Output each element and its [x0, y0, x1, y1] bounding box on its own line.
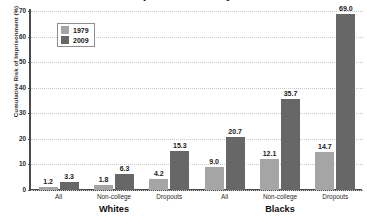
- bar: [205, 167, 224, 190]
- legend-label: 1979: [73, 27, 89, 34]
- x-tick-label: Non-college: [84, 194, 144, 200]
- bar: [226, 137, 245, 190]
- bar: [315, 152, 334, 190]
- x-tick-label: Dropouts: [139, 194, 199, 200]
- y-tick-mark: [28, 139, 31, 140]
- bar-value-label: 15.3: [164, 142, 195, 149]
- bar: [39, 187, 58, 190]
- y-tick-label: 0: [6, 187, 26, 193]
- y-tick-mark: [28, 11, 31, 12]
- x-axis-group-label: Blacks: [230, 205, 330, 214]
- gridline: [31, 11, 363, 12]
- bar: [260, 159, 279, 190]
- y-tick-label: 40: [6, 85, 26, 91]
- x-tick-label: Non-college: [250, 194, 310, 200]
- bar: [281, 99, 300, 190]
- gridline: [31, 139, 363, 140]
- bar: [60, 182, 79, 190]
- x-tick-label: All: [195, 194, 255, 200]
- y-tick-label: 20: [6, 136, 26, 142]
- x-tick-label: All: [29, 194, 89, 200]
- y-tick-mark: [28, 164, 31, 165]
- gridline: [31, 190, 363, 191]
- y-tick-label: 30: [6, 110, 26, 116]
- chart-title: Cumulative Risk of Imprisonment by Race …: [0, 0, 367, 1]
- legend-item: 2009: [61, 36, 89, 44]
- gridline: [31, 62, 363, 63]
- x-tick-label: Dropouts: [305, 194, 365, 200]
- bar-value-label: 3.3: [54, 173, 85, 180]
- gridline: [31, 164, 363, 165]
- gridline: [31, 88, 363, 89]
- bar: [170, 151, 189, 190]
- y-tick-mark: [28, 62, 31, 63]
- y-tick-mark: [28, 37, 31, 38]
- bar-value-label: 69.0: [330, 5, 361, 12]
- legend: 19792009: [57, 23, 95, 47]
- y-tick-mark: [28, 88, 31, 89]
- y-tick-label: 60: [6, 34, 26, 40]
- legend-swatch-icon: [61, 26, 69, 34]
- gridline: [31, 113, 363, 114]
- legend-label: 2009: [73, 37, 89, 44]
- legend-swatch-icon: [61, 36, 69, 44]
- bar: [115, 174, 134, 190]
- bar-value-label: 6.3: [109, 165, 140, 172]
- y-tick-mark: [28, 113, 31, 114]
- bar: [94, 185, 113, 190]
- y-tick-label: 70: [6, 8, 26, 14]
- legend-item: 1979: [61, 26, 89, 34]
- bar-value-label: 35.7: [275, 90, 306, 97]
- bar-chart: Cumulative Risk of Imprisonment by Race …: [0, 0, 367, 222]
- bar: [149, 179, 168, 190]
- bar-value-label: 20.7: [220, 128, 251, 135]
- y-tick-label: 10: [6, 161, 26, 167]
- y-tick-mark: [28, 190, 31, 191]
- y-tick-label: 50: [6, 59, 26, 65]
- bar: [336, 14, 355, 190]
- x-axis-group-label: Whites: [64, 205, 164, 214]
